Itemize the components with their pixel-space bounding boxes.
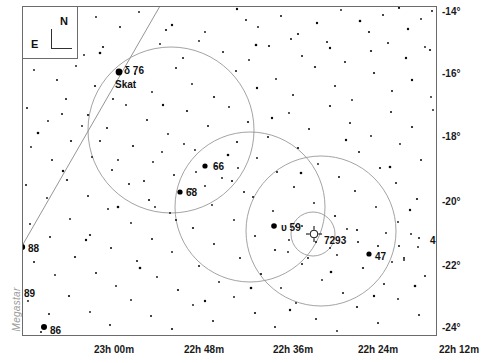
named-star[interactable] [23, 244, 25, 250]
star-dot [213, 96, 215, 98]
star-dot [385, 232, 387, 234]
star-dot [143, 180, 145, 182]
star-dot [254, 235, 256, 237]
star-dot [359, 20, 362, 23]
star-dot [95, 16, 97, 18]
star-dot [301, 55, 303, 57]
star-dot [26, 107, 28, 109]
star-dot [33, 261, 35, 263]
star-dot [297, 147, 299, 149]
star-dot [211, 204, 213, 206]
star-dot [136, 260, 138, 262]
star-dot [257, 26, 259, 28]
star-dot [221, 177, 223, 179]
star-dot [182, 57, 184, 59]
star-dot [74, 256, 76, 258]
star-dot [329, 47, 331, 49]
star-dot [247, 121, 249, 123]
star-dot [399, 143, 401, 145]
star-dot [256, 157, 258, 159]
star-dot [389, 166, 392, 169]
star-dot [432, 109, 434, 111]
star-dot [280, 15, 282, 17]
star-dot [336, 330, 338, 332]
star-dot [290, 38, 292, 40]
star-dot [138, 11, 140, 13]
planetary-nebula-icon[interactable] [306, 226, 322, 242]
label-delta-aquarii: δ 76 [124, 65, 144, 76]
star-dot [420, 159, 422, 161]
star-dot [336, 254, 338, 256]
deep-sky-objects-group [306, 226, 322, 242]
star-dot [117, 206, 120, 209]
star-dot [424, 46, 426, 48]
star-dot [391, 261, 393, 263]
dec-tick-label: -18° [440, 131, 461, 142]
star-dot [346, 228, 348, 230]
ra-tick-label: 22h 24m [356, 344, 400, 355]
star-dot [397, 221, 399, 223]
star-dot [49, 236, 51, 238]
label-star-41: 41 [430, 235, 437, 246]
star-dot [344, 61, 346, 63]
star-dot [370, 50, 372, 52]
named-star[interactable] [271, 223, 277, 229]
star-dot [62, 170, 64, 172]
star-dot [403, 257, 405, 259]
star-dot [69, 218, 71, 220]
dec-tick-label: -22° [440, 260, 461, 271]
named-star[interactable] [366, 251, 371, 256]
star-dot [239, 257, 241, 259]
star-dot [61, 113, 63, 115]
star-dot [252, 196, 254, 198]
star-dot [89, 234, 91, 236]
star-dot [83, 54, 85, 56]
named-star[interactable] [116, 69, 123, 76]
star-dot [288, 112, 290, 114]
star-dot [321, 279, 323, 281]
star-dot [165, 29, 167, 31]
star-dot [383, 283, 385, 285]
star-dot [150, 315, 152, 317]
star-dot [395, 182, 397, 184]
label-upsilon-aquarii: υ 59 [281, 222, 301, 233]
star-dot [128, 183, 130, 185]
star-dot [27, 300, 29, 302]
star-dot [356, 229, 358, 231]
star-dot [65, 98, 67, 100]
star-dot [87, 195, 89, 197]
star-dot [391, 90, 393, 92]
compass-rose: N E [23, 7, 78, 59]
star-dot [152, 161, 154, 163]
star-dot [37, 132, 40, 135]
star-dot [250, 287, 253, 290]
star-dot [173, 174, 175, 176]
star-dot [256, 87, 258, 89]
star-dot [315, 241, 317, 243]
star-dot [407, 28, 409, 30]
star-dot [162, 104, 164, 106]
star-dot [228, 106, 230, 108]
star-dot [379, 167, 381, 169]
star-dot [171, 328, 173, 330]
star-dot [139, 267, 142, 270]
star-dot [410, 233, 412, 235]
star-dot [293, 186, 295, 188]
star-chart-screenshot: δ 76 Skat 66 68 88 89 86 υ 59 7293 47 41… [0, 0, 485, 363]
star-dot [204, 300, 206, 302]
star-dot [177, 289, 179, 291]
sky-chart-area[interactable]: δ 76 Skat 66 68 88 89 86 υ 59 7293 47 41 [22, 6, 437, 336]
star-dot [111, 169, 113, 171]
star-dot [301, 263, 303, 265]
star-dot [280, 287, 282, 289]
star-dot [109, 324, 111, 326]
star-dot [345, 139, 347, 141]
named-star[interactable] [202, 163, 207, 168]
star-dot [358, 151, 360, 153]
star-dot [99, 140, 101, 142]
star-dot [125, 104, 127, 106]
star-dot [148, 199, 150, 201]
named-star[interactable] [177, 189, 182, 194]
named-star[interactable] [41, 324, 47, 330]
star-dot [351, 99, 353, 101]
